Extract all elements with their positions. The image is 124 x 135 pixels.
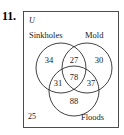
region-value-sinkholes-mold: 27	[70, 55, 79, 65]
venn-diagram-figure: 11. U Sinkholes Mold Floods 34 27 30 31 …	[0, 0, 124, 135]
region-value-all-three: 78	[70, 72, 79, 82]
universe-box: U Sinkholes Mold Floods 34 27 30 31 78 3…	[23, 11, 119, 128]
region-value-mold-only: 30	[95, 55, 104, 65]
region-value-mold-floods: 37	[87, 78, 96, 88]
universe-rectangle	[24, 12, 119, 128]
region-value-outside-all: 25	[28, 112, 36, 121]
region-value-sinkholes-only: 34	[45, 55, 54, 65]
set-label-mold: Mold	[85, 30, 104, 40]
region-value-floods-only: 88	[70, 96, 79, 106]
set-label-sinkholes: Sinkholes	[29, 30, 63, 40]
region-value-sinkholes-floods: 31	[54, 78, 63, 88]
problem-number: 11.	[2, 10, 16, 22]
